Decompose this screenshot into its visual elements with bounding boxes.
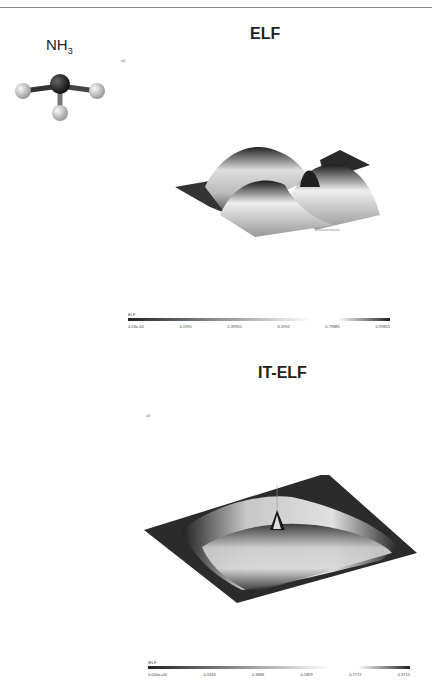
panel-title-it-elf: IT-ELF: [258, 364, 307, 382]
corner-label-it-elf: x5: [146, 413, 150, 418]
tick: 0.000e+00: [148, 672, 167, 677]
colorbar-ramp-high: [338, 318, 390, 321]
tick: 0.3886: [252, 672, 264, 677]
colorbar-label: IELF: [148, 660, 156, 665]
tick: 0.39955: [227, 324, 241, 329]
molecule-label: NH3: [46, 36, 73, 56]
tick: 0.7772: [349, 672, 361, 677]
it-elf-colorbar: IELF 0.000e+00 0.1943 0.3886 0.5829 0.77…: [148, 660, 410, 680]
tick: 0.5992: [277, 324, 289, 329]
elf-surface-plot: [165, 125, 395, 240]
molecule-subscript: 3: [68, 46, 73, 56]
elf-colorbar: ELF 4.03e-04 0.1995 0.39955 0.5992 0.798…: [128, 312, 390, 332]
tick: 0.9715: [398, 672, 410, 677]
tick: 0.1943: [203, 672, 215, 677]
header-rule: [0, 7, 432, 8]
colorbar-label: ELF: [128, 312, 135, 317]
colorbar-ticks: 4.03e-04 0.1995 0.39955 0.5992 0.79885 0…: [128, 324, 390, 329]
colorbar-ramp-high: [358, 666, 410, 669]
colorbar-ticks: 0.000e+00 0.1943 0.3886 0.5829 0.7772 0.…: [148, 672, 410, 677]
tick: 0.1995: [179, 324, 191, 329]
tick: 0.99851: [375, 324, 389, 329]
molecule-formula: NH: [46, 36, 68, 53]
nh3-ball-stick-icon: [10, 62, 110, 124]
page-mark: ·: [268, 0, 270, 6]
it-elf-surface-plot: [142, 475, 427, 610]
corner-label-elf: x5: [121, 58, 125, 63]
tick: 0.79885: [325, 324, 339, 329]
tick: 0.5829: [301, 672, 313, 677]
colorbar-ramp-low: [128, 318, 311, 321]
panel-title-elf: ELF: [250, 25, 280, 43]
colorbar-ramp-low: [148, 666, 331, 669]
tick: 4.03e-04: [128, 324, 144, 329]
